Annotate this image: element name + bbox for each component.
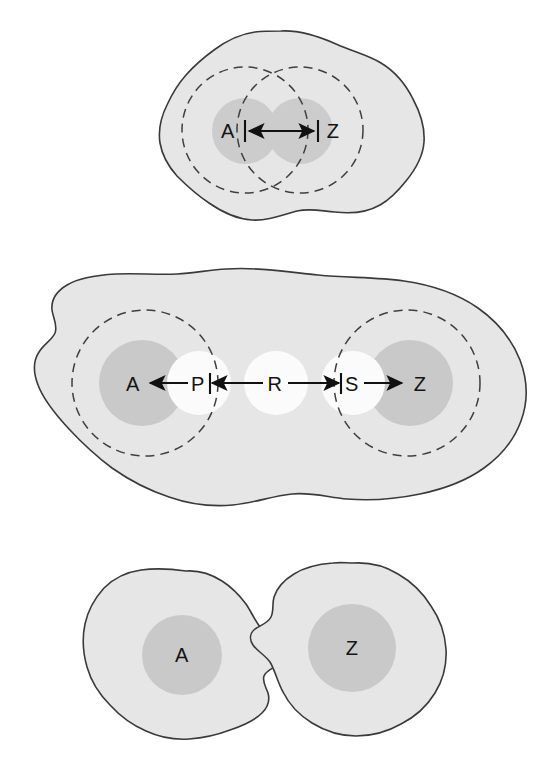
middle-label-r: R xyxy=(268,373,283,395)
panel-bottom: A Z xyxy=(83,563,446,740)
diagram-canvas: A Z A P R S Z xyxy=(0,0,548,767)
bottom-label-z: Z xyxy=(346,637,359,659)
panel-middle: A P R S Z xyxy=(34,269,526,506)
top-label-z: Z xyxy=(327,120,340,142)
top-label-a: A xyxy=(221,120,235,142)
middle-label-s: S xyxy=(345,373,359,395)
bottom-label-a: A xyxy=(175,644,189,666)
middle-label-a: A xyxy=(126,373,140,395)
middle-label-z: Z xyxy=(414,373,427,395)
panel-top: A Z xyxy=(159,31,424,220)
network-reachability-diagram: A Z A P R S Z xyxy=(0,0,548,767)
middle-label-p: P xyxy=(191,373,205,395)
